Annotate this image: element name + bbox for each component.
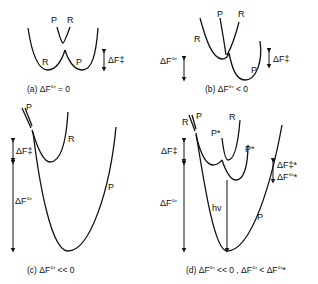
label-r-right: R: [229, 112, 236, 122]
label-df-std: ΔF°′: [160, 56, 177, 66]
label-r-top: R: [238, 9, 245, 19]
product-curve: [33, 127, 116, 251]
upper-cusp: [57, 27, 70, 43]
marcus-free-energy-diagram: P R R P ΔF‡ (a) ΔF°′ = 0 P R R P ΔF‡ ΔF°…: [0, 0, 318, 284]
r-upper-lines: [189, 115, 196, 131]
label-df-std: ΔF°′: [160, 198, 177, 208]
label-p-top: P: [217, 9, 223, 19]
label-p-low: P: [251, 65, 257, 75]
label-df-act: ΔF‡: [16, 146, 33, 156]
label-p-low: P: [76, 57, 82, 67]
upper-p-line: [220, 18, 226, 55]
caption-b: (b) ΔF°′ < 0: [205, 84, 248, 94]
panel-c: P R P ΔF‡ ΔF°′ (c) ΔF°′ << 0: [13, 102, 116, 275]
label-df-act: ΔF‡: [273, 54, 290, 64]
label-df-std: ΔF°′: [15, 196, 32, 206]
label-r-low: R: [42, 57, 49, 67]
label-p: P: [108, 182, 114, 192]
label-r-left: R: [194, 34, 201, 44]
panel-a: P R R P ΔF‡ (a) ΔF°′ = 0: [27, 15, 125, 94]
label-pstar-2: P*: [245, 144, 255, 154]
product-curve: [196, 125, 282, 251]
reactant-curve: [200, 18, 229, 59]
label-r-top: R: [182, 117, 189, 127]
caption-d: (d) ΔF°′ << 0 , ΔF°′ < ΔF°′*: [186, 265, 286, 275]
label-r: R: [68, 134, 75, 144]
panel-d: R P P* R P* P hν ΔF‡ ΔF°′ ΔF‡* ΔF°′* (d)…: [160, 111, 298, 275]
label-p: P: [257, 212, 263, 222]
label-df-act: ΔF‡: [161, 146, 178, 156]
upper-r-line: [227, 22, 239, 55]
label-p-top: P: [196, 111, 202, 121]
label-p-top: P: [26, 102, 32, 112]
label-p-top: P: [51, 15, 57, 25]
caption-c: (c) ΔF°′ << 0: [27, 265, 75, 275]
label-df-std-star: ΔF°′*: [277, 172, 298, 182]
reactant-curve: [32, 112, 68, 162]
excited-product-curve-inner: [222, 120, 240, 160]
label-hv: hν: [212, 203, 222, 213]
label-r-top: R: [67, 15, 74, 25]
caption-a: (a) ΔF°′ = 0: [27, 84, 70, 94]
label-pstar-1: P*: [211, 128, 221, 138]
panel-b: P R R P ΔF‡ ΔF°′ (b) ΔF°′ < 0: [160, 9, 290, 94]
label-df-act: ΔF‡: [108, 55, 125, 65]
label-df-act-star: ΔF‡*: [277, 160, 298, 170]
